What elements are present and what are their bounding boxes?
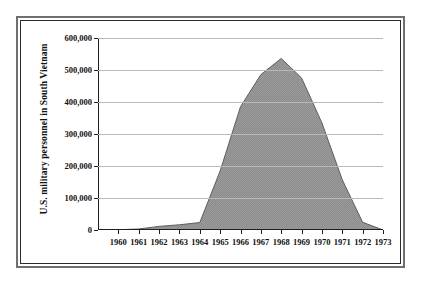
chart-page: U.S. military personnel in South Vietnam… — [0, 0, 423, 292]
x-axis-tick-mark — [302, 230, 303, 234]
y-axis-tick-label: 200,000 — [30, 161, 98, 171]
x-axis-tick-label: 1973 — [375, 237, 392, 247]
y-axis-tick-label: 0 — [30, 225, 98, 235]
x-axis-tick-mark — [383, 230, 384, 234]
gridline — [98, 198, 383, 199]
x-axis-tick-mark — [363, 230, 364, 234]
x-axis-tick-mark — [118, 230, 119, 234]
x-axis-tick-mark — [139, 230, 140, 234]
x-axis-tick-label: 1960 — [110, 237, 127, 247]
x-axis-tick-label: 1969 — [293, 237, 310, 247]
x-axis-tick-mark — [281, 230, 282, 234]
x-axis-tick-mark — [261, 230, 262, 234]
x-axis-tick-label: 1961 — [130, 237, 147, 247]
x-axis-tick-label: 1965 — [212, 237, 229, 247]
y-axis-tick-label: 500,000 — [30, 65, 98, 75]
x-axis-tick-label: 1972 — [354, 237, 371, 247]
x-axis-tick-label: 1964 — [191, 237, 208, 247]
x-axis-tick-mark — [159, 230, 160, 234]
x-axis-tick-label: 1966 — [232, 237, 249, 247]
x-axis-tick-label: 1967 — [252, 237, 269, 247]
gridline — [98, 102, 383, 103]
x-axis-tick-label: 1970 — [313, 237, 330, 247]
y-axis-tick-label: 400,000 — [30, 97, 98, 107]
x-axis-tick-mark — [322, 230, 323, 234]
x-axis-tick-mark — [220, 230, 221, 234]
y-axis-tick-label: 100,000 — [30, 193, 98, 203]
x-axis-tick-mark — [179, 230, 180, 234]
gridline — [98, 134, 383, 135]
y-axis-tick-label: 600,000 — [30, 33, 98, 43]
chart-container: U.S. military personnel in South Vietnam… — [20, 20, 401, 264]
x-axis-tick-label: 1963 — [171, 237, 188, 247]
gridline — [98, 38, 383, 39]
x-axis-tick-mark — [200, 230, 201, 234]
x-axis-tick-label: 1971 — [334, 237, 351, 247]
plot-area: 0100,000200,000300,000400,000500,000600,… — [98, 38, 383, 230]
x-axis-tick-label: 1968 — [273, 237, 290, 247]
gridline — [98, 166, 383, 167]
x-axis-tick-mark — [241, 230, 242, 234]
y-axis-tick-label: 300,000 — [30, 129, 98, 139]
x-axis-tick-mark — [342, 230, 343, 234]
x-axis-tick-label: 1962 — [151, 237, 168, 247]
gridline — [98, 70, 383, 71]
